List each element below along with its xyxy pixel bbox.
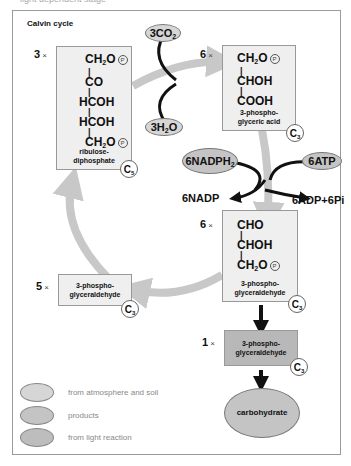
h2o-oval: 3H2O — [145, 118, 183, 136]
ribulose-multiplier: 3× — [34, 48, 47, 60]
carbohydrate-oval: carbohydrate — [224, 388, 300, 438]
pgal1-name: 3-phospho-glyceraldehyde — [225, 339, 297, 357]
adp-label: 6ADP+6Pi — [292, 194, 344, 206]
pgal5-multiplier: 5× — [36, 280, 49, 292]
cycle-arrow-top — [133, 62, 222, 86]
ribulose-formula: CH2OP | CO | HCOH | HCOH | CH2OP — [79, 53, 128, 152]
phosphate-icon: P — [270, 261, 280, 271]
legend-swatch — [20, 406, 54, 425]
pgal1-multiplier: 1× — [202, 336, 215, 348]
pga-multiplier: 6× — [200, 48, 213, 60]
h2o-curve — [160, 84, 176, 122]
carbon-count-badge: C5 — [120, 160, 138, 178]
nadph-oval: 6NADPH2 — [182, 148, 238, 174]
carbon-count-badge: C3 — [121, 300, 139, 318]
carbon-count-badge: C3 — [290, 358, 308, 376]
co2-oval: 3CO2 — [145, 24, 181, 42]
legend-item-atmosphere: from atmosphere and soil — [20, 383, 220, 403]
legend-swatch — [20, 383, 54, 402]
carbon-count-badge: C3 — [286, 124, 304, 142]
carbon-count-badge: C3 — [288, 295, 306, 313]
phosphate-icon: P — [270, 54, 280, 64]
phosphoglyceraldehyde-box-1: 3-phospho-glyceraldehyde — [224, 330, 298, 366]
phosphoglyceraldehyde-box-6: CHO | CHOH | CH2OP 3-phospho-glyceraldeh… — [222, 210, 298, 302]
nadp-label: 6NADP — [182, 192, 219, 204]
cycle-arrow-right — [262, 130, 268, 218]
legend-swatch — [20, 428, 54, 447]
cycle-arrow-left — [70, 182, 110, 280]
phosphoglyceraldehyde-box-5: 3-phospho-glyceraldehyde — [58, 274, 132, 306]
pgal5-name: 3-phospho-glyceraldehyde — [59, 281, 131, 299]
cycle-arrow-bottom — [134, 275, 222, 293]
legend-item-products: products — [20, 406, 220, 426]
ribulose-name: ribulose-diphosphate — [57, 147, 131, 165]
atp-oval: 6ATP — [302, 152, 342, 170]
legend-item-light-reaction: from light reaction — [20, 428, 220, 448]
pga-name: 3-phospho-glyceric acid — [223, 108, 295, 126]
pgal6-formula: CHO | CHOH | CH2OP — [237, 219, 280, 275]
pga-formula: CH2OP | CHOH | COOH — [237, 52, 280, 108]
ribulose-diphosphate-box: CH2OP | CO | HCOH | HCOH | CH2OP ribulos… — [56, 46, 132, 170]
pgal6-name: 3-phospho-glyceraldehyde — [223, 279, 297, 297]
pgal6-multiplier: 6× — [200, 218, 213, 230]
phosphate-icon: P — [118, 55, 128, 65]
phosphoglyceric-acid-box: CH2OP | CHOH | COOH 3-phospho-glyceric a… — [222, 45, 296, 131]
